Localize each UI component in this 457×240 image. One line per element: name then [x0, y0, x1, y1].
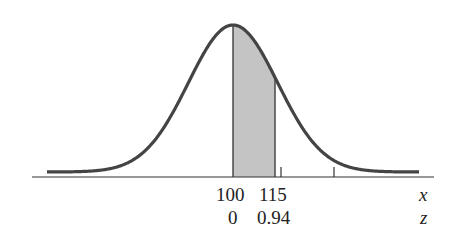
normal-curve-chart: 100 115 x 0 0.94 z	[0, 0, 457, 240]
x-label-115: 115	[259, 184, 287, 205]
x-label-100: 100	[216, 184, 245, 205]
z-axis-name: z	[419, 207, 428, 228]
z-label-094: 0.94	[257, 207, 291, 228]
z-label-0: 0	[228, 207, 238, 228]
shaded-region	[233, 25, 275, 177]
x-axis-name: x	[418, 184, 428, 205]
